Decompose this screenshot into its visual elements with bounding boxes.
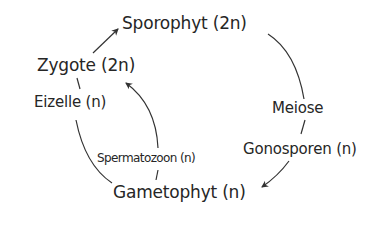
node-eizelle: Eizelle (n)	[34, 95, 106, 110]
node-gonosporen: Gonosporen (n)	[243, 142, 357, 157]
arrow-zygote-to-sporophyt	[93, 29, 118, 53]
arrow-spermatozoon-to-zygote	[126, 83, 158, 148]
line-sporophyt-to-meiose	[268, 34, 304, 99]
node-meiose: Meiose	[272, 101, 323, 116]
line-gametophyt-to-spermatozoon	[156, 170, 158, 180]
node-gametophyt: Gametophyt (n)	[113, 184, 246, 201]
line-eizelle-to-zygote	[77, 78, 80, 89]
line-meiose-to-gonosporen	[301, 120, 305, 134]
life-cycle-diagram: Sporophyt (2n) Zygote (2n) Eizelle (n) M…	[0, 0, 388, 225]
node-sporophyt: Sporophyt (2n)	[122, 15, 247, 32]
node-spermatozoon: Spermatozoon (n)	[97, 152, 195, 164]
arrow-gonosporen-to-gametophyt	[262, 161, 289, 187]
node-zygote: Zygote (2n)	[37, 57, 135, 74]
